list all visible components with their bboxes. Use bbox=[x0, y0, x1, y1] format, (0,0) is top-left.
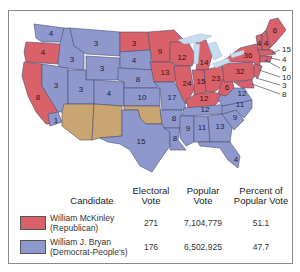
svg-text:4: 4 bbox=[282, 55, 287, 64]
svg-text:12: 12 bbox=[178, 53, 187, 62]
candidate-bryan: William J. Bryan(Democrat-People's) bbox=[50, 237, 128, 257]
territory-az bbox=[62, 104, 94, 140]
svg-text:4: 4 bbox=[49, 29, 54, 38]
svg-text:17: 17 bbox=[168, 93, 177, 102]
svg-text:36: 36 bbox=[244, 51, 253, 60]
svg-text:12: 12 bbox=[201, 105, 210, 114]
svg-text:32: 32 bbox=[236, 67, 245, 76]
svg-text:3: 3 bbox=[100, 64, 105, 73]
svg-text:3: 3 bbox=[94, 39, 99, 48]
svg-text:10: 10 bbox=[138, 93, 147, 102]
svg-text:12: 12 bbox=[200, 94, 209, 103]
svg-text:15: 15 bbox=[282, 45, 291, 54]
popular-bryan: 6,502,925 bbox=[173, 242, 233, 252]
swatch-republican bbox=[20, 216, 46, 230]
svg-text:4: 4 bbox=[234, 155, 239, 164]
svg-text:6: 6 bbox=[282, 64, 287, 73]
svg-text:8: 8 bbox=[173, 134, 178, 143]
svg-text:15: 15 bbox=[137, 137, 146, 146]
svg-text:11: 11 bbox=[236, 100, 245, 109]
us-electoral-map: 4 4 8 1 3 3 3 3 3 4 3 4 8 10 15 9 13 17 … bbox=[0, 0, 300, 272]
svg-text:9: 9 bbox=[158, 47, 163, 56]
percent-bryan: 47.7 bbox=[236, 242, 286, 252]
territory-nm bbox=[92, 104, 122, 140]
header-electoral: ElectoralVote bbox=[126, 186, 176, 206]
svg-text:3: 3 bbox=[282, 81, 287, 90]
candidate-mckinley: William McKinley(Republican) bbox=[50, 213, 114, 233]
svg-text:8: 8 bbox=[136, 75, 141, 84]
svg-text:6: 6 bbox=[273, 26, 278, 35]
header-percent: Percent ofPopular Vote bbox=[228, 186, 294, 206]
svg-text:11: 11 bbox=[198, 123, 207, 132]
electoral-bryan: 176 bbox=[136, 242, 166, 252]
svg-text:14: 14 bbox=[200, 58, 209, 67]
svg-text:8: 8 bbox=[172, 114, 177, 123]
header-popular: PopularVote bbox=[173, 186, 233, 206]
svg-text:13: 13 bbox=[216, 122, 225, 131]
svg-text:3: 3 bbox=[79, 85, 84, 94]
svg-text:12: 12 bbox=[238, 89, 247, 98]
state-nj bbox=[254, 64, 262, 78]
svg-text:4: 4 bbox=[264, 39, 269, 48]
svg-text:15: 15 bbox=[197, 77, 206, 86]
svg-text:3: 3 bbox=[132, 39, 137, 48]
percent-mckinley: 51.1 bbox=[236, 218, 286, 228]
popular-mckinley: 7,104,779 bbox=[173, 218, 233, 228]
svg-text:8: 8 bbox=[36, 93, 41, 102]
svg-text:1: 1 bbox=[54, 116, 59, 125]
svg-text:9: 9 bbox=[233, 113, 238, 122]
svg-text:24: 24 bbox=[183, 79, 192, 88]
svg-text:13: 13 bbox=[161, 68, 170, 77]
svg-text:9: 9 bbox=[186, 124, 191, 133]
svg-text:6: 6 bbox=[225, 83, 230, 92]
svg-text:4: 4 bbox=[107, 89, 112, 98]
svg-text:3: 3 bbox=[54, 81, 59, 90]
svg-text:3: 3 bbox=[70, 55, 75, 64]
state-ma bbox=[258, 50, 276, 56]
svg-text:4: 4 bbox=[257, 39, 262, 48]
svg-text:8: 8 bbox=[282, 90, 287, 99]
svg-text:23: 23 bbox=[212, 74, 221, 83]
electoral-mckinley: 271 bbox=[136, 218, 166, 228]
svg-text:4: 4 bbox=[132, 56, 137, 65]
swatch-democrat bbox=[20, 240, 46, 254]
svg-text:4: 4 bbox=[41, 48, 46, 57]
